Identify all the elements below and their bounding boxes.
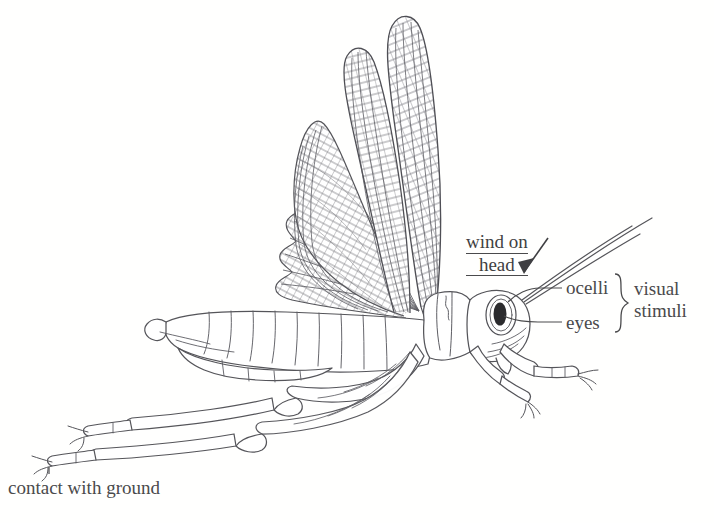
abdomen-tip [145,319,166,340]
locust-line-drawing [0,0,714,523]
label-ocelli: ocelli [566,278,608,299]
eye-pupil [494,303,507,326]
label-wind-on-head-line2: head [466,255,528,277]
label-wind-on-head-line1: wind on [466,232,528,254]
label-visual-stimuli-line1: visual [634,278,687,300]
label-contact-with-ground: contact with ground [8,478,160,499]
figure-canvas: wind on head ocelli eyes visual stimuli … [0,0,714,523]
pronotum [424,292,473,360]
label-visual-stimuli-line2: stimuli [634,300,687,322]
grouping-brace [615,274,628,332]
label-eyes: eyes [566,313,600,334]
label-visual-stimuli: visual stimuli [634,278,687,322]
label-wind-on-head: wind on head [466,232,528,277]
